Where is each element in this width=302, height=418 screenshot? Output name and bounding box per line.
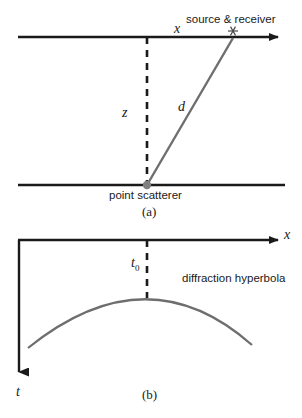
axis-x-label: x — [284, 228, 290, 242]
point-scatterer-label: point scatterer — [109, 190, 182, 202]
panel-a-caption: (a) — [142, 205, 156, 218]
axis-t-label: t — [16, 385, 20, 399]
depth-z-label: z — [122, 106, 127, 120]
ray-path-line — [147, 38, 233, 185]
panel-b-graphics — [18, 240, 278, 372]
t-zero-label: t0 — [131, 256, 139, 273]
diffraction-hyperbola-label: diffraction hyperbola — [182, 273, 285, 285]
scatterer-dot-icon — [143, 181, 151, 189]
panel-a-graphics — [18, 27, 285, 190]
diffraction-hyperbola-curve — [28, 299, 252, 348]
asterisk-icon — [228, 27, 238, 36]
offset-x-label: x — [174, 22, 180, 36]
source-receiver-label: source & receiver — [186, 14, 275, 26]
panel-b-caption: (b) — [142, 388, 157, 401]
t-zero-subscript: 0 — [135, 263, 140, 273]
seismic-diffraction-figure: source & receiver x z d point scatterer … — [0, 0, 302, 418]
distance-d-label: d — [178, 100, 185, 114]
